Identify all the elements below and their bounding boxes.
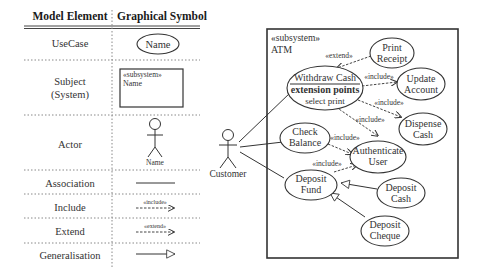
usecase-dispense-cash: Dispense Cash <box>399 113 447 145</box>
svg-text:select print: select print <box>305 96 345 106</box>
svg-text:Cash: Cash <box>413 129 433 140</box>
legend-label-usecase: UseCase <box>52 38 89 49</box>
usecase-deposit-fund: Deposit Fund <box>285 170 337 200</box>
subsystem-stereotype: «subsystem» <box>271 33 320 43</box>
header-model-element: Model Element <box>32 10 107 22</box>
label-include-update: «include» <box>364 72 394 81</box>
atm-use-case-diagram: «subsystem» ATM Customer «extend» «inclu… <box>210 29 458 258</box>
usecase-authenticate-user: Authenticate User <box>350 141 406 173</box>
svg-text:Update: Update <box>407 73 436 84</box>
svg-text:Cash: Cash <box>391 193 411 204</box>
svg-text:Cheque: Cheque <box>370 230 401 241</box>
usecase-print-receipt: Print Receipt <box>370 38 414 68</box>
usecase-check-balance: Check Balance <box>280 123 330 153</box>
subject-symbol-name: Name <box>123 79 143 88</box>
label-extend-print: «extend» <box>325 51 353 60</box>
svg-text:Fund: Fund <box>301 184 322 195</box>
legend-label-extend: Extend <box>55 226 85 237</box>
svg-text:Print: Print <box>382 42 402 53</box>
legend-label-actor: Actor <box>58 139 82 150</box>
actor-symbol-icon <box>147 119 163 158</box>
subsystem-name: ATM <box>271 44 292 55</box>
svg-text:Account: Account <box>404 84 438 95</box>
include-symbol-text: «include» <box>143 199 167 205</box>
legend-row-include: Include «include» <box>54 199 174 213</box>
svg-text:Dispense: Dispense <box>405 118 442 129</box>
svg-text:Authenticate: Authenticate <box>352 145 404 156</box>
usecase-update-account: Update Account <box>397 68 445 100</box>
label-include-auth-balance: «include» <box>330 133 360 142</box>
label-include-auth-deposit: «include» <box>312 159 342 168</box>
legend-label-subject-line1: Subject <box>54 76 86 87</box>
svg-text:Check: Check <box>292 126 318 137</box>
label-include-dispense: «include» <box>374 98 404 107</box>
legend-row-usecase: UseCase Name <box>52 34 179 54</box>
svg-text:Deposit: Deposit <box>369 219 400 230</box>
legend-label-generalisation: Generalisation <box>39 250 101 261</box>
customer-actor-icon <box>219 130 237 169</box>
legend-row-association: Association <box>45 178 175 189</box>
svg-text:extension points: extension points <box>291 84 360 95</box>
svg-text:Deposit: Deposit <box>295 173 326 184</box>
legend-table: Model Element Graphical Symbol UseCase N… <box>24 10 207 268</box>
actor-symbol-name: Name <box>146 158 165 167</box>
legend-label-association: Association <box>45 178 95 189</box>
legend-row-subject: Subject (System) «subsystem» Name <box>51 69 183 107</box>
legend-row-extend: Extend «extend» <box>55 223 174 237</box>
usecase-deposit-cash: Deposit Cash <box>377 178 425 208</box>
svg-text:Withdraw Cash: Withdraw Cash <box>294 72 356 83</box>
uml-use-case-figure: Model Element Graphical Symbol UseCase N… <box>0 0 481 277</box>
label-include-auth-withdraw: «include» <box>355 115 385 124</box>
svg-text:Receipt: Receipt <box>377 53 408 64</box>
legend-label-subject-line2: (System) <box>51 89 89 101</box>
header-graphical-symbol: Graphical Symbol <box>117 10 207 23</box>
legend-row-generalisation: Generalisation <box>39 250 175 261</box>
legend-row-actor: Actor Name <box>58 119 165 168</box>
legend-label-include: Include <box>54 202 86 213</box>
usecase-deposit-cheque: Deposit Cheque <box>361 216 409 246</box>
actor-customer-name: Customer <box>210 169 248 179</box>
usecase-symbol-text: Name <box>145 39 170 50</box>
usecase-withdraw-cash: Withdraw Cash extension points select pr… <box>287 66 363 110</box>
subject-symbol-stereotype: «subsystem» <box>123 70 162 79</box>
svg-text:Balance: Balance <box>289 137 322 148</box>
svg-text:User: User <box>369 156 389 167</box>
extend-symbol-text: «extend» <box>144 223 166 229</box>
svg-text:Deposit: Deposit <box>385 182 416 193</box>
